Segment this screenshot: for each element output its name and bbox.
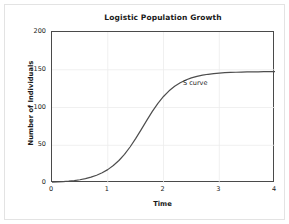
x-tick-2: 2 — [160, 185, 164, 193]
plot-area: S curve — [51, 31, 274, 182]
chart-title: Logistic Population Growth — [51, 13, 275, 22]
chart-figure: Logistic Population Growth Number of Ind… — [0, 0, 289, 224]
s-curve-annotation: S curve — [183, 79, 207, 87]
x-tick-0: 0 — [49, 185, 53, 193]
plot-svg — [52, 32, 275, 183]
y-axis-tick-labels: 200 150 100 50 0 — [27, 31, 46, 182]
x-tick-4: 4 — [272, 185, 276, 193]
y-tick-200: 200 — [34, 27, 46, 35]
x-tick-3: 3 — [216, 185, 220, 193]
gridlines — [52, 32, 275, 183]
y-tick-150: 150 — [34, 65, 46, 73]
y-tick-50: 50 — [38, 140, 46, 148]
x-tick-1: 1 — [105, 185, 109, 193]
y-tick-0: 0 — [42, 178, 46, 186]
x-axis-tick-labels: 0 1 2 3 4 — [51, 185, 274, 195]
x-axis-title: Time — [51, 200, 274, 208]
y-tick-100: 100 — [34, 103, 46, 111]
